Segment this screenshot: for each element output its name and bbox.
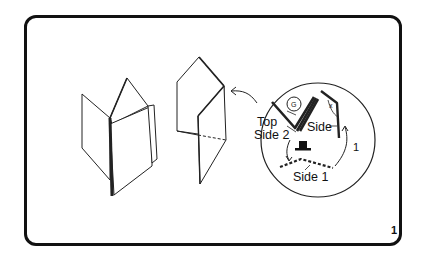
diagram-art: G x bbox=[0, 0, 430, 263]
pointer-arrow bbox=[231, 91, 257, 103]
page-number: 1 bbox=[391, 225, 397, 236]
label-side1: Side 1 bbox=[293, 171, 328, 184]
label-side: Side bbox=[307, 121, 332, 134]
label-side2: Side 2 bbox=[254, 129, 289, 142]
label-step: 1 bbox=[353, 142, 359, 153]
svg-text:G: G bbox=[291, 101, 296, 108]
label-top: Top bbox=[257, 116, 277, 129]
valley-fold-model bbox=[177, 57, 226, 184]
folded-book-model bbox=[82, 78, 157, 196]
